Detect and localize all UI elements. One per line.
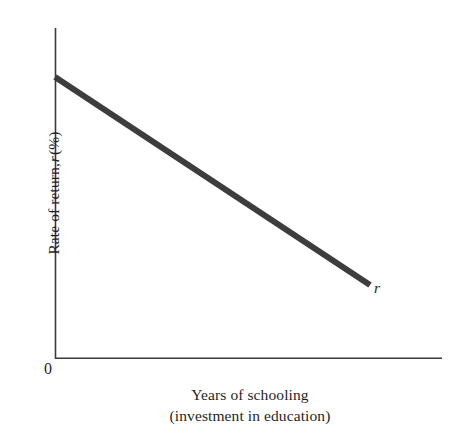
x-axis-caption: Years of schooling (investment in educat… <box>55 384 445 426</box>
figure-container: Rate of return, r (%) Years of schooling… <box>0 0 464 446</box>
y-axis-title-variable: r <box>46 155 62 163</box>
y-axis-title-prefix: Rate of return, <box>46 163 62 254</box>
y-axis-title-suffix: (%) <box>46 131 62 155</box>
x-axis-caption-line-2: (investment in education) <box>55 405 445 426</box>
y-axis-title: Rate of return, r (%) <box>36 28 72 358</box>
curve-label-r: r <box>374 280 380 296</box>
rate-of-return-line <box>55 77 370 285</box>
origin-label: 0 <box>44 361 52 377</box>
x-axis-caption-line-1: Years of schooling <box>55 384 445 405</box>
